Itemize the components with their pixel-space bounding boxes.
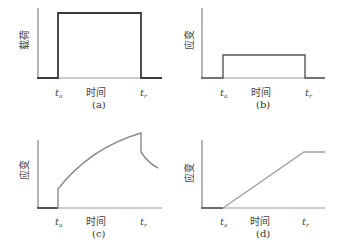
tick-tr: tr (140, 87, 148, 99)
tick-tr: tr (140, 216, 148, 228)
y-label: 应变 (183, 30, 195, 50)
x-label: 时间 (86, 86, 106, 98)
tick-ta: ta (220, 87, 228, 99)
caption-a: (a) (92, 99, 106, 110)
panel-a: 载荷 ta 时间 tr (a) (19, 8, 162, 110)
tick-ta: ta (55, 216, 63, 228)
y-label: 应变 (183, 163, 195, 183)
tick-tr: tr (302, 216, 310, 228)
panel-d: 应变 ta 时间 tr (d) (183, 140, 325, 239)
x-label: 时间 (250, 215, 270, 227)
caption-d: (d) (256, 228, 270, 239)
y-label: 应变 (18, 160, 30, 180)
panel-b: 应变 ta 时间 tr (b) (183, 8, 325, 110)
load-curve (37, 13, 162, 78)
panel-c: 应变 ta 时间 tr (c) (18, 133, 162, 239)
viscous-strain-curve (223, 152, 325, 208)
caption-c: (c) (92, 228, 106, 239)
elastic-strain-curve (201, 55, 325, 78)
tick-ta: ta (55, 87, 63, 99)
viscoelastic-strain-curve (58, 133, 158, 208)
y-label: 载荷 (19, 30, 30, 50)
strain-response-diagram: 载荷 ta 时间 tr (a) 应变 ta 时间 tr (b) 应变 ta 时间… (0, 0, 338, 249)
x-label: 时间 (86, 215, 106, 227)
caption-b: (b) (256, 99, 270, 110)
x-label: 时间 (251, 86, 271, 98)
tick-ta: ta (220, 216, 228, 228)
tick-tr: tr (305, 87, 313, 99)
